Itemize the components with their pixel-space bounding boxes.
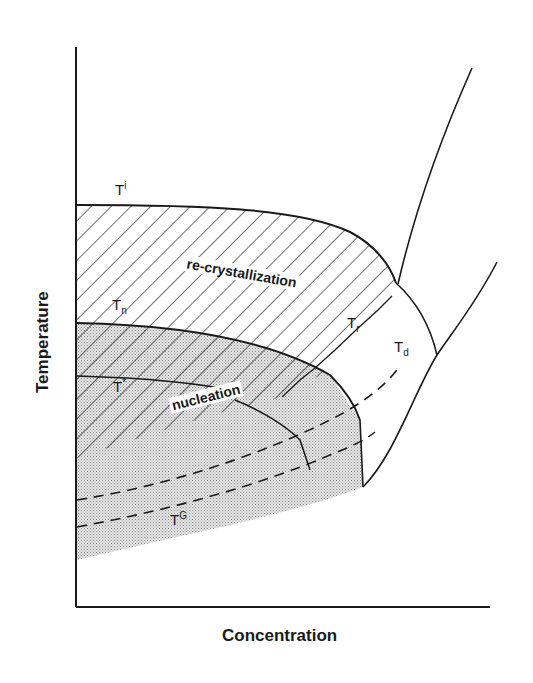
tstar-label: T*: [113, 377, 126, 395]
td-label: Td: [394, 338, 409, 358]
tg-label: TG: [170, 510, 187, 528]
tr-label: Tr: [347, 314, 360, 334]
x-axis-label: Concentration: [222, 626, 337, 646]
y-axis-label: Temperature: [33, 291, 53, 393]
phase-diagram: [0, 0, 533, 683]
tn-label: Tn: [112, 296, 127, 316]
liquidus-curve: [398, 68, 472, 284]
ti-label: Ti: [115, 180, 126, 198]
